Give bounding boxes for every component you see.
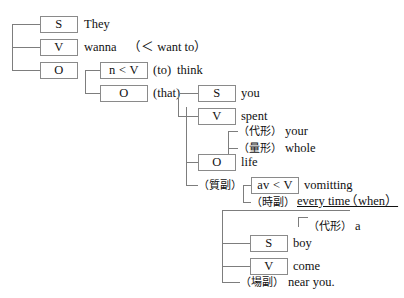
node-object-level1[interactable]: O (40, 62, 78, 79)
connector-subclause-to-s (222, 243, 250, 244)
node-verb-wanna[interactable]: V (40, 39, 78, 56)
node-noun-verb-think[interactable]: n < V (100, 62, 148, 79)
connector-subclause-top (222, 210, 350, 211)
note-wanna-origin: （＜ want to） (128, 40, 207, 55)
connector-level1-to-v (12, 47, 40, 48)
word-boy: boy (293, 236, 312, 251)
note-that: (that) (153, 86, 180, 101)
connector-level3-long-spine (186, 107, 187, 185)
word-spent: spent (241, 109, 267, 124)
connector-to-modifier-your (228, 131, 238, 132)
connector-level1-to-s (12, 24, 40, 25)
connector-level1-to-o (12, 70, 40, 71)
node-verb-spent[interactable]: V (198, 108, 236, 125)
node-adverb-verb-vomitting[interactable]: av < V (251, 177, 299, 194)
tag-modifier-whole: （量形） (238, 141, 282, 156)
word-think: think (177, 63, 203, 78)
word-near-you: near you. (288, 275, 335, 290)
connector-level3-to-o (186, 162, 198, 163)
note-to: (to) (153, 63, 171, 78)
tag-adverb-time: （時副） (251, 195, 295, 210)
word-you: you (241, 86, 260, 101)
tag-modifier-a: （代形） (308, 219, 352, 234)
word-life: life (241, 155, 258, 170)
node-subject-boy[interactable]: S (250, 235, 288, 252)
node-subject-you[interactable]: S (198, 85, 236, 102)
tag-adverb-place: （場副） (240, 275, 284, 290)
node-subject-they[interactable]: S (40, 16, 78, 33)
word-a: a (355, 219, 361, 234)
word-vomitting: vomitting (304, 178, 353, 193)
conjunction-when: （when） (345, 194, 398, 209)
word-come: come (293, 259, 320, 274)
word-wanna: wanna (84, 40, 117, 55)
word-they: They (84, 17, 110, 32)
connector-modifier-a-spine (298, 217, 299, 227)
node-object-level2[interactable]: O (100, 85, 148, 102)
connector-to-modifier-whole (228, 148, 238, 149)
connector-to-vomitting (243, 185, 251, 186)
word-your: your (285, 124, 308, 139)
connector-subclause-to-adv-place (222, 282, 240, 283)
connector-level3-to-s (178, 93, 198, 94)
connector-level3-spine (178, 93, 179, 116)
node-object-life[interactable]: O (198, 154, 236, 171)
connector-subclause-spine (222, 210, 223, 282)
connector-level3-to-adv (186, 185, 198, 186)
conjunction-when-text: （when） (345, 194, 398, 208)
connector-adverb-quality-spine (243, 185, 244, 202)
sentence-structure-diagram: S They V wanna （＜ want to） O n < V (to) … (0, 0, 404, 298)
word-whole: whole (285, 141, 316, 156)
connector-level2-to-nv (85, 70, 100, 71)
connector-level2-spine (85, 70, 86, 93)
node-verb-come[interactable]: V (250, 258, 288, 275)
connector-level3-to-v (178, 116, 198, 117)
connector-to-modifier-a (298, 217, 308, 218)
connector-level2-to-o (85, 93, 100, 94)
tag-modifier-your: （代形） (238, 124, 282, 139)
tag-adverb-quality: （質副） (198, 178, 242, 193)
connector-subclause-to-v (222, 266, 250, 267)
connector-to-adverb-time (243, 202, 251, 203)
word-every-time: every time (297, 194, 350, 209)
